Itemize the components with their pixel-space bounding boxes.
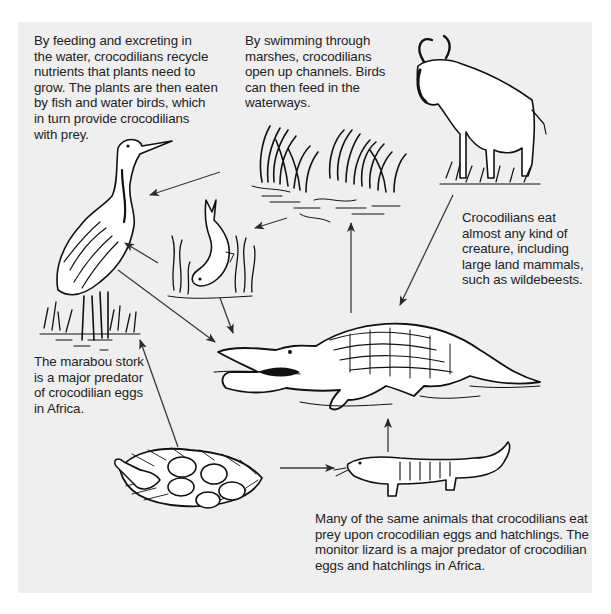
crocodile-illustration: [214, 324, 540, 410]
arrow-marsh-to-fish: [255, 218, 287, 228]
arrow-fish-to-stork: [125, 243, 158, 263]
fish-illustration: [168, 200, 255, 298]
reeds-illustration: [252, 126, 406, 222]
lizard-illustration: [334, 442, 510, 496]
arrow-fish-to-crocodile: [220, 298, 233, 333]
nest-illustration: [115, 448, 262, 508]
diagram-canvas: [0, 0, 611, 614]
arrow-wildebeest-to-crocodile: [400, 195, 453, 305]
arrow-nest-to-stork: [140, 340, 178, 447]
stork-illustration: [40, 140, 172, 351]
arrow-marsh-to-stork: [150, 172, 220, 195]
food-web-arrows: [118, 172, 453, 468]
wildebeest-illustration: [417, 36, 546, 184]
